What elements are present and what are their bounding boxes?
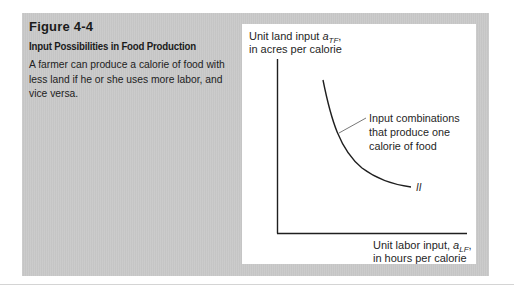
x-axis-label-line-2: in hours per calorie <box>373 252 467 264</box>
y-axis-label-line-2: in acres per calorie <box>249 43 342 55</box>
curve-label: II <box>416 182 422 193</box>
annotation-leader-line <box>339 118 366 133</box>
annotation-line-3: calorie of food <box>369 140 437 152</box>
bottom-divider <box>0 284 514 285</box>
isoquant-chart: Unit land input aTF, in acres per calori… <box>0 0 514 290</box>
annotation-line-2: that produce one <box>369 126 450 138</box>
annotation-line-1: Input combinations <box>369 112 460 124</box>
